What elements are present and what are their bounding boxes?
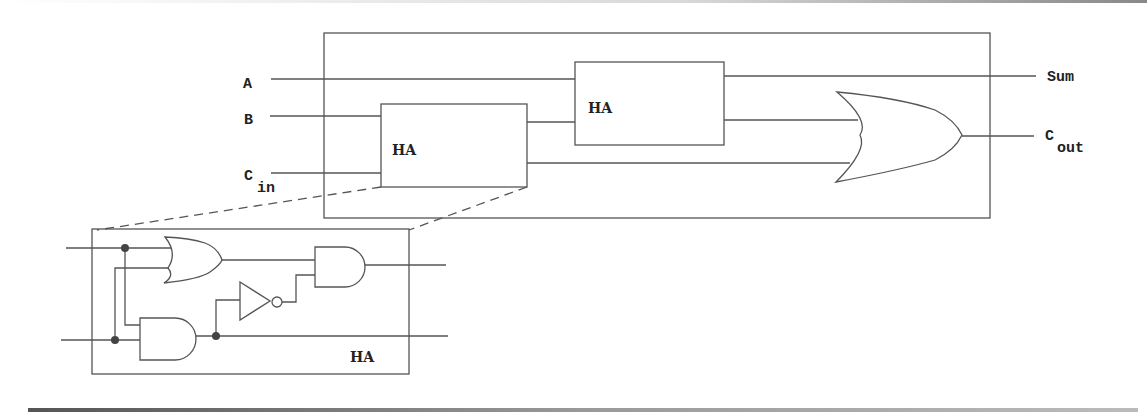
- output-cout-subscript: out: [1057, 140, 1084, 157]
- detail-wire-a-to-and: [125, 248, 140, 325]
- bottom-rule: [28, 408, 1138, 412]
- detail-wire-to-not: [216, 300, 240, 336]
- output-sum-label: Sum: [1047, 69, 1074, 86]
- detail-not-gate: [240, 282, 270, 320]
- detail-and-gate-bottom: [140, 318, 196, 360]
- zoom-line-left: [97, 187, 381, 230]
- input-cin-subscript: in: [257, 180, 275, 197]
- detail-or-gate: [164, 237, 222, 283]
- junction-dot-carry: [212, 332, 220, 340]
- output-cout-label: C: [1045, 128, 1054, 145]
- junction-dot-a: [121, 244, 129, 252]
- input-a-label: A: [243, 76, 252, 93]
- input-b-label: B: [244, 112, 253, 129]
- detail-and-gate-top: [315, 247, 365, 287]
- half-adder-2-label: HA: [588, 100, 613, 116]
- input-cin-label: C: [244, 168, 253, 185]
- junction-dot-b: [111, 336, 119, 344]
- detail-wire-not-to-and: [282, 275, 315, 302]
- zoom-line-right: [409, 187, 527, 230]
- detail-not-bubble: [272, 297, 282, 307]
- top-rule: [0, 0, 1147, 3]
- half-adder-1-label: HA: [392, 142, 417, 158]
- half-adder-detail-label: HA: [350, 349, 375, 365]
- or-gate-main: [836, 92, 962, 182]
- full-adder-diagram: A B C in HA HA Sum C out HA: [0, 0, 1147, 412]
